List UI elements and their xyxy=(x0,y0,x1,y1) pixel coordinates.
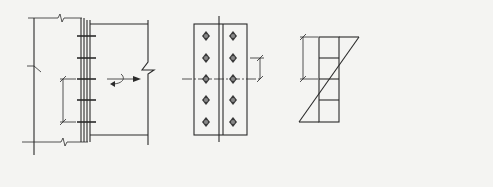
bolt-icon xyxy=(202,74,210,84)
end-plate-outline xyxy=(194,24,247,135)
load-symbols xyxy=(107,74,141,87)
bolt-icon xyxy=(229,31,237,41)
bolt-icon xyxy=(202,53,210,63)
linear-force-line xyxy=(299,37,359,122)
bolt-icon xyxy=(229,53,237,63)
panel-a-elevation xyxy=(22,14,154,155)
moment-arrowhead-icon xyxy=(110,81,115,87)
dimension-y1-plan xyxy=(250,55,264,82)
axial-arrowhead-icon xyxy=(133,76,141,82)
bolt-icon xyxy=(229,117,237,127)
panel-end-plate-plan xyxy=(182,16,264,142)
bolt-icon xyxy=(202,117,210,127)
bolt-icon xyxy=(229,95,237,105)
dimension-e xyxy=(60,76,76,125)
break-line-top xyxy=(28,14,82,22)
bolt-icon xyxy=(229,74,237,84)
bolt-icon xyxy=(202,31,210,41)
bolt-icon xyxy=(202,95,210,105)
panel-b-distribution xyxy=(299,34,359,122)
beam-break-end xyxy=(142,20,154,145)
break-line-bottom xyxy=(22,138,88,146)
bolt-connection-figure xyxy=(0,0,493,187)
